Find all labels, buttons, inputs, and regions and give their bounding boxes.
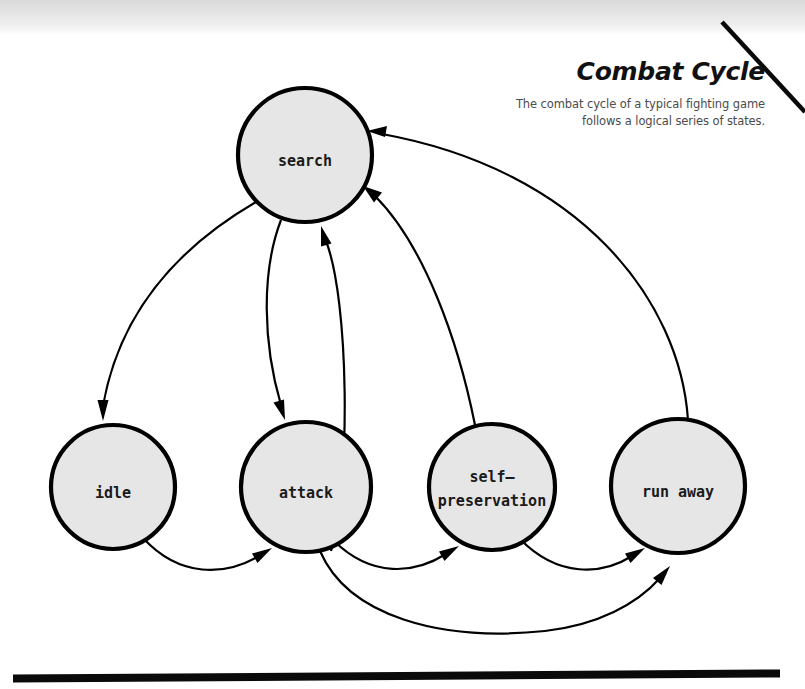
arrowhead-search-to-attack (274, 400, 286, 421)
node-self-preservation-circle[interactable] (429, 424, 555, 550)
bottom-horizontal-rule (13, 674, 780, 679)
arrowhead-attack-to-search (321, 226, 332, 247)
arrowhead-self-preservation-to-run-away (625, 548, 645, 563)
header-block: Combat Cycle The combat cycle of a typic… (465, 58, 765, 131)
node-self-preservation-label-line2: preservation (438, 492, 546, 510)
page-subtitle-line-1: The combat cycle of a typical fighting g… (516, 97, 765, 111)
edge-search-to-attack (267, 220, 285, 420)
node-search-label: search (278, 152, 332, 170)
page-title: Combat Cycle (465, 58, 765, 86)
page-subtitle: The combat cycle of a typical fighting g… (465, 96, 765, 132)
node-self-preservation[interactable]: self– preservation (429, 424, 555, 550)
edge-attack-to-self-preservation (334, 541, 459, 569)
edge-search-to-idle (98, 202, 257, 421)
node-run-away-label: run away (642, 483, 714, 501)
arrowhead-attack-to-self-preservation (439, 546, 459, 561)
edge-self-preservation-to-run-away (520, 539, 645, 570)
node-search[interactable]: search (238, 88, 372, 222)
node-idle[interactable]: idle (51, 425, 175, 549)
node-idle-label: idle (95, 484, 131, 502)
arrowhead-idle-to-attack (252, 548, 272, 563)
page-subtitle-line-2: follows a logical series of states. (582, 114, 765, 128)
node-self-preservation-label-line1: self– (469, 468, 515, 486)
node-attack[interactable]: attack (241, 422, 371, 552)
edge-run-away-to-search (367, 126, 688, 420)
node-run-away[interactable]: run away (611, 419, 745, 553)
edge-self-preservation-to-search (363, 186, 475, 425)
edge-idle-to-attack (143, 538, 272, 570)
node-attack-label: attack (279, 484, 333, 502)
diagram-page: search idle attack self– preservation ru… (0, 0, 805, 689)
arrowhead-search-to-idle (98, 400, 109, 421)
